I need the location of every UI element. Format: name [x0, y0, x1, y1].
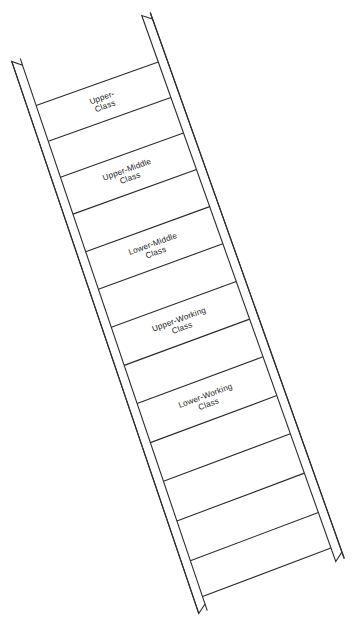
right-rail-outline: [142, 12, 344, 561]
rung-label-group: Upper-MiddleClass: [101, 157, 155, 191]
rung-label-group: Upper-Class: [88, 89, 119, 115]
rung-divider-line: [163, 434, 290, 481]
rung-divider-line: [177, 473, 304, 521]
social-class-ladder-svg: Upper-ClassUpper-MiddleClassLower-Middle…: [0, 0, 358, 630]
rung-divider-line: [203, 548, 331, 597]
rung-label-group: Lower-MiddleClass: [127, 231, 181, 265]
ladder-diagram-root: Upper-ClassUpper-MiddleClassLower-Middle…: [0, 0, 358, 630]
left-rail: [12, 59, 208, 614]
rung-label-group: Lower-WorkingClass: [177, 382, 237, 419]
right-rail-inner-edge: [150, 12, 344, 558]
rung-divider-line: [190, 512, 318, 560]
left-rail-outline: [12, 59, 208, 614]
rung-labels-group: Upper-ClassUpper-MiddleClassLower-Middle…: [88, 89, 237, 418]
left-rail-inner-edge: [12, 61, 199, 613]
right-rail: [142, 12, 344, 561]
